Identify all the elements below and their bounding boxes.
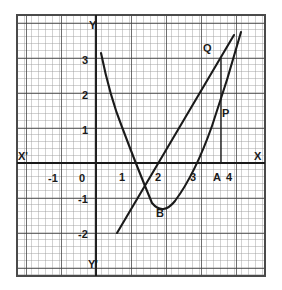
point-label-Q: Q: [203, 42, 212, 54]
point-label-B: B: [156, 207, 164, 219]
x-tick-label-0: 0: [79, 172, 85, 184]
x-axis-label: X: [254, 150, 262, 162]
graph-svg: -1 0 1 2 3 4 3 2 1 -1 -2 X X' Y Y' Q P B…: [0, 0, 282, 290]
y-tick-label-1: 1: [82, 124, 88, 136]
x-tick-label-2: 2: [155, 171, 161, 183]
y-axis-label: Y: [89, 19, 97, 31]
graph-figure: -1 0 1 2 3 4 3 2 1 -1 -2 X X' Y Y' Q P B…: [0, 0, 282, 290]
y-tick-label--2: -2: [78, 228, 88, 240]
x-tick-label--1: -1: [48, 172, 58, 184]
y-axis-negative-label: Y': [88, 258, 98, 270]
y-tick-label-2: 2: [82, 89, 88, 101]
x-tick-label-1: 1: [119, 171, 125, 183]
x-tick-label-3: 3: [190, 171, 196, 183]
y-tick-label--1: -1: [78, 193, 88, 205]
x-axis-negative-label: X': [18, 150, 28, 162]
x-tick-label-4: 4: [226, 171, 233, 183]
major-gridlines: [17, 15, 265, 276]
point-label-A: A: [213, 171, 221, 183]
y-tick-label-3: 3: [82, 54, 88, 66]
point-label-P: P: [222, 107, 229, 119]
